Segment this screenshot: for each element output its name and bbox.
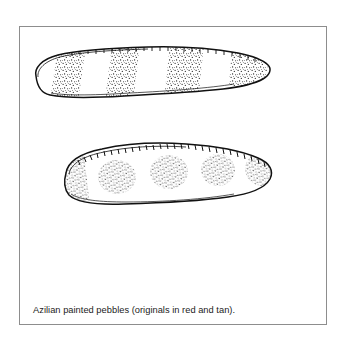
illustration-canvas <box>20 27 326 292</box>
figure-caption: Azilian painted pebbles (originals in re… <box>33 304 318 316</box>
pebble-lower-spot-4 <box>245 152 281 186</box>
figure-plate: Azilian painted pebbles (originals in re… <box>19 26 327 325</box>
pebble-lower-spot-1 <box>98 160 136 194</box>
pebble-lower-lower-contour <box>71 194 234 202</box>
pebble-upper <box>36 45 270 101</box>
pebble-lower <box>60 143 281 209</box>
pebble-illustration <box>20 27 326 292</box>
pebble-lower-spot-2 <box>150 155 188 189</box>
pebble-lower-spot-3 <box>201 154 235 186</box>
